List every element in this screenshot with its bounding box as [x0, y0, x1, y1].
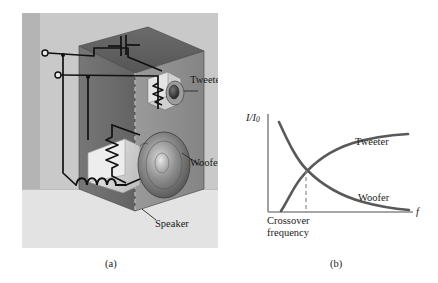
caption-panel-b: (b)	[330, 258, 342, 269]
tweeter-dome	[169, 85, 179, 99]
wire-junction-dot-top	[61, 53, 65, 57]
panel-a-speaker-illustration: Tweeter Woofer Speaker	[22, 13, 218, 248]
terminal-post-negative-icon	[55, 72, 61, 78]
y-axis-label-subscript: 0	[256, 115, 260, 124]
curve-label-woofer: Woofer	[358, 192, 389, 203]
caption-panel-a: (a)	[105, 258, 117, 269]
curve-label-tweeter: Tweeter	[355, 136, 389, 147]
woofer-dust-cap	[155, 153, 169, 173]
label-woofer: Woofer	[190, 157, 218, 168]
crossover-annotation-line1: Crossover	[267, 215, 310, 226]
panel-b-response-graph: I/I0 f Tweeter Woofer Crossover frequenc…	[245, 110, 430, 240]
leader-line-speaker	[142, 209, 156, 220]
label-speaker: Speaker	[155, 218, 189, 229]
y-axis-label: I/I0	[246, 112, 260, 124]
label-tweeter: Tweeter	[190, 74, 218, 85]
x-axis-label: f	[416, 206, 419, 217]
terminal-post-positive-icon	[42, 50, 48, 56]
wire-junction-dot-mid	[86, 75, 90, 79]
figure-root: Tweeter Woofer Speaker (a) I/I0 f Tweete…	[0, 0, 438, 283]
speaker-cabinet-drawing	[22, 13, 218, 248]
y-axis-label-text: I/I	[246, 112, 256, 123]
crossover-annotation-line2: frequency	[267, 227, 309, 238]
